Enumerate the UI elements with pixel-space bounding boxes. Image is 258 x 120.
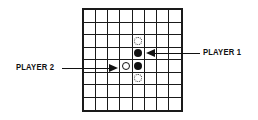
game-board [82, 8, 183, 112]
player-1-arrowhead-icon [146, 49, 155, 57]
board-cell[interactable] [157, 60, 169, 73]
board-cell[interactable] [157, 10, 169, 23]
board-cell[interactable] [145, 35, 157, 48]
board-cell[interactable] [96, 98, 108, 111]
board-cell[interactable] [120, 98, 132, 111]
board-cell[interactable] [84, 85, 96, 98]
possible-move-icon[interactable] [134, 74, 142, 82]
board-cell[interactable] [84, 10, 96, 23]
board-cell[interactable] [84, 35, 96, 48]
white-piece [122, 62, 130, 70]
board-cell[interactable] [145, 73, 157, 86]
player-1-arrow-line [153, 53, 200, 55]
player-2-arrow-line [62, 68, 110, 70]
player-2-label: PLAYER 2 [16, 62, 54, 72]
board-cell[interactable] [157, 35, 169, 48]
board-cell[interactable] [96, 48, 108, 61]
board-cell[interactable] [96, 35, 108, 48]
board-cell[interactable] [145, 10, 157, 23]
board-cell[interactable] [120, 48, 132, 61]
board-cell[interactable] [157, 85, 169, 98]
board-cell[interactable] [96, 60, 108, 73]
board-cell[interactable] [133, 10, 145, 23]
board-cell[interactable] [145, 60, 157, 73]
board-cell[interactable] [84, 73, 96, 86]
board-cell[interactable] [169, 10, 181, 23]
board-cell[interactable] [84, 23, 96, 36]
board-cell[interactable] [169, 73, 181, 86]
black-piece [134, 62, 142, 70]
board-cell[interactable] [133, 23, 145, 36]
possible-move-icon[interactable] [134, 37, 142, 45]
board-cell[interactable] [169, 85, 181, 98]
board-cell[interactable] [96, 23, 108, 36]
board-cell[interactable] [84, 60, 96, 73]
board-cell[interactable] [133, 98, 145, 111]
board-cell[interactable] [120, 85, 132, 98]
board-cell[interactable] [133, 60, 145, 73]
board-cell[interactable] [84, 98, 96, 111]
board-cell[interactable] [108, 98, 120, 111]
player-1-label: PLAYER 1 [203, 47, 241, 57]
board-cell[interactable] [96, 73, 108, 86]
board-cell[interactable] [120, 10, 132, 23]
board-cell[interactable] [157, 73, 169, 86]
board-cell[interactable] [120, 23, 132, 36]
board-cell[interactable] [169, 98, 181, 111]
board-cell[interactable] [157, 98, 169, 111]
board-cell[interactable] [133, 35, 145, 48]
board-cell[interactable] [108, 10, 120, 23]
board-cell[interactable] [120, 60, 132, 73]
board-cell[interactable] [96, 10, 108, 23]
board-cell[interactable] [84, 48, 96, 61]
board-cell[interactable] [96, 85, 108, 98]
board-cell[interactable] [145, 23, 157, 36]
board-cell[interactable] [169, 35, 181, 48]
board-cell[interactable] [120, 73, 132, 86]
board-cell[interactable] [157, 23, 169, 36]
board-cell[interactable] [108, 35, 120, 48]
black-piece [134, 49, 142, 57]
board-cell[interactable] [133, 85, 145, 98]
board-cell[interactable] [169, 60, 181, 73]
player-2-arrowhead-icon [109, 64, 118, 72]
board-cell[interactable] [108, 73, 120, 86]
board-cell[interactable] [133, 48, 145, 61]
board-cell[interactable] [169, 23, 181, 36]
board-cell[interactable] [108, 85, 120, 98]
board-cell[interactable] [108, 23, 120, 36]
board-cell[interactable] [120, 35, 132, 48]
board-cell[interactable] [145, 85, 157, 98]
board-cell[interactable] [145, 98, 157, 111]
board-cell[interactable] [108, 48, 120, 61]
board-cell[interactable] [133, 73, 145, 86]
